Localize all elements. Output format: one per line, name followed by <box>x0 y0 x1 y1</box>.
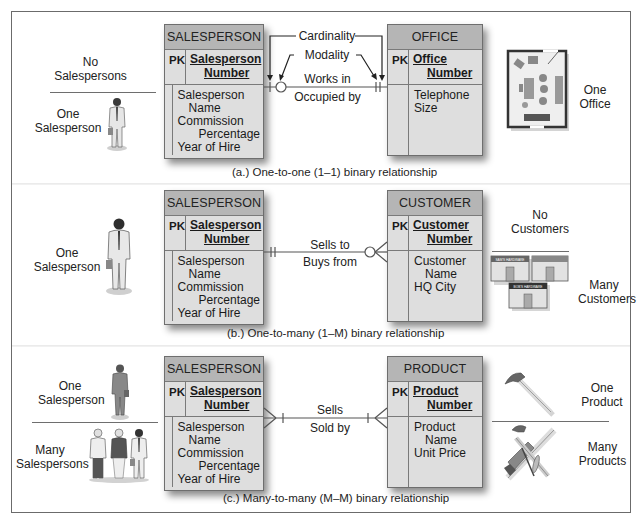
attributes: Product Name Unit Price <box>409 417 482 487</box>
primary-key: Customer Number <box>409 216 482 250</box>
entity-name: SALESPERSON <box>165 25 263 50</box>
primary-key: Salesperson Number <box>186 382 265 416</box>
one-salesperson-label: One Salesperson <box>28 107 108 135</box>
pk-label: PK <box>165 216 186 250</box>
one-salesperson-label: One Salesperson <box>38 379 102 407</box>
relationship-forward-label: Sells to <box>300 238 360 252</box>
pk-label: PK <box>388 50 409 84</box>
pk-label: PK <box>388 216 409 250</box>
many-salespersons-label: Many Salespersons <box>16 443 84 471</box>
primary-key: Salesperson Number <box>186 216 265 250</box>
pk-label: PK <box>165 382 186 416</box>
one-salesperson-label: One Salesperson <box>32 246 102 274</box>
one-product-label: One Product <box>577 381 627 409</box>
caption-one-to-one: (a.) One-to-one (1–1) binary relationshi… <box>232 166 437 178</box>
salesperson-figure-icon <box>106 97 128 152</box>
entity-name: SALESPERSON <box>165 191 263 216</box>
entity-office[interactable]: OFFICE PK Office Number Telephone Size <box>387 24 483 156</box>
section-separator <box>12 345 630 347</box>
entity-name: OFFICE <box>388 25 482 50</box>
attributes: Salesperson Name Commission Percentage Y… <box>173 417 263 490</box>
entity-salesperson[interactable]: SALESPERSON PK Salesperson Number Salesp… <box>164 356 264 491</box>
entity-salesperson[interactable]: SALESPERSON PK Salesperson Number Salesp… <box>164 24 264 159</box>
entity-name: CUSTOMER <box>388 191 482 216</box>
primary-key: Salesperson Number <box>186 50 265 84</box>
primary-key: Product Number <box>409 382 482 416</box>
hardware-stores-icon: SAM'S HARDWARE BOB'S HARDWARE <box>491 256 573 318</box>
entity-product[interactable]: PRODUCT PK Product Number Product Name U… <box>387 356 483 488</box>
entity-name: SALESPERSON <box>165 357 263 382</box>
no-salespersons-label: No Salespersons <box>38 55 143 83</box>
divider-rule <box>492 251 569 252</box>
cardinality-annotation: Cardinality <box>297 29 357 43</box>
svg-text:BOB'S HARDWARE: BOB'S HARDWARE <box>514 285 543 289</box>
many-products-label: Many Products <box>575 440 630 468</box>
entity-salesperson[interactable]: SALESPERSON PK Salesperson Number Salesp… <box>164 190 264 325</box>
attributes: Salesperson Name Commission Percentage Y… <box>173 85 263 158</box>
salesperson-figure-icon <box>104 217 134 295</box>
divider-rule <box>50 92 156 93</box>
entity-name: PRODUCT <box>388 357 482 382</box>
attributes: Salesperson Name Commission Percentage Y… <box>173 251 263 324</box>
one-office-label: One Office <box>575 83 615 111</box>
relationship-forward-label: Works in <box>295 72 360 86</box>
relationship-forward-label: Sells <box>300 403 360 417</box>
relationship-reverse-label: Buys from <box>295 255 365 269</box>
relationship-reverse-label: Sold by <box>295 421 365 435</box>
section-separator <box>12 183 630 185</box>
divider-rule <box>492 421 609 422</box>
hammer-icon <box>505 370 560 420</box>
svg-text:SAM'S HARDWARE: SAM'S HARDWARE <box>495 258 524 262</box>
tools-icon <box>502 424 562 484</box>
no-customers-label: No Customers <box>505 208 575 236</box>
salesperson-figure-icon <box>110 364 130 420</box>
entity-customer[interactable]: CUSTOMER PK Customer Number Customer Nam… <box>387 190 483 322</box>
attributes: Customer Name HQ City <box>409 251 482 321</box>
caption-many-to-many: (c.) Many-to-many (M–M) binary relations… <box>223 492 449 504</box>
salesperson-group-icon <box>88 428 150 483</box>
primary-key: Office Number <box>409 50 482 84</box>
office-floorplan-icon <box>508 51 570 131</box>
many-customers-label: Many Customers <box>578 278 630 306</box>
modality-annotation: Modality <box>297 48 357 62</box>
relationship-reverse-label: Occupied by <box>290 90 365 104</box>
pk-label: PK <box>388 382 409 416</box>
pk-label: PK <box>165 50 186 84</box>
attributes: Telephone Size <box>409 85 482 155</box>
divider-rule <box>32 422 158 423</box>
caption-one-to-many: (b.) One-to-many (1–M) binary relationsh… <box>227 327 444 339</box>
